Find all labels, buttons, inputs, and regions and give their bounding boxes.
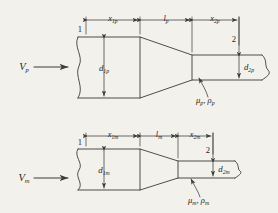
prototype-section-2-marker: 2 xyxy=(232,34,236,44)
prototype-lp-label: lp xyxy=(163,14,168,24)
model-right-break-line xyxy=(235,161,241,178)
prototype-d2p-label: d2p xyxy=(244,62,254,73)
prototype-fluid-properties-label: μp, ρp xyxy=(195,95,215,106)
prototype-panel xyxy=(34,17,269,98)
prototype-x1p-label: x1p xyxy=(107,14,118,24)
model-section-2-marker: 2 xyxy=(206,145,210,155)
prototype-right-break-line xyxy=(262,55,269,80)
model-d2m-label: d2m xyxy=(218,164,230,175)
model-velocity-label: Vm xyxy=(18,172,29,184)
model-x2m-label: x2m xyxy=(189,130,201,140)
model-x1m-label: x1m xyxy=(107,130,119,140)
prototype-x2p-label: x2p xyxy=(209,14,220,24)
model-left-break-line xyxy=(77,149,81,190)
prototype-section-1-marker: 1 xyxy=(78,24,82,34)
prototype-left-break-line xyxy=(77,37,81,98)
model-fluid-properties-label: μm, ρm xyxy=(187,195,209,206)
pipe-contraction-figure: Vp 1 2 x1p lp x2p d1p d2p μp, ρp Vm 1 2 … xyxy=(0,0,278,213)
prototype-velocity-label: Vp xyxy=(19,61,29,73)
model-section-1-marker: 1 xyxy=(78,137,82,147)
model-panel xyxy=(34,133,241,197)
model-lm-label: lm xyxy=(156,130,162,140)
